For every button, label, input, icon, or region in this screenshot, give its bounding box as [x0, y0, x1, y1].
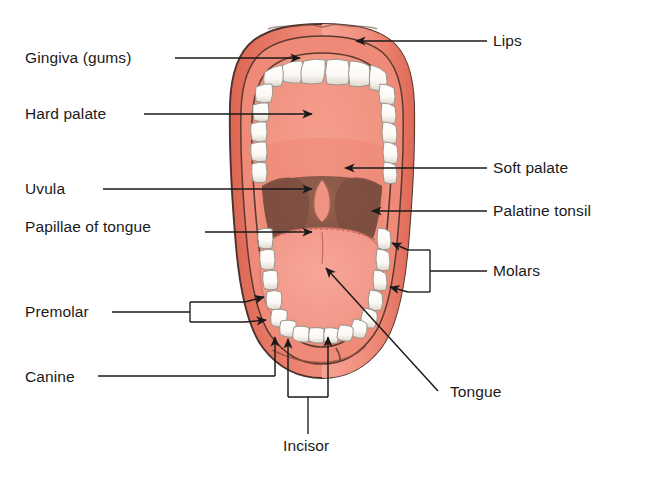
- label-lips: Lips: [493, 32, 522, 49]
- label-tongue: Tongue: [450, 383, 501, 400]
- oral-cavity-diagram: Lips Gingiva (gums) Hard palate Soft pal…: [0, 0, 645, 477]
- label-gingiva: Gingiva (gums): [25, 49, 132, 66]
- leader-premolar: [112, 297, 266, 322]
- label-incisor: Incisor: [283, 437, 329, 454]
- label-hard-palate: Hard palate: [25, 105, 106, 122]
- label-papillae-of-tongue: Papillae of tongue: [25, 218, 151, 235]
- tongue-median-sulcus: [322, 232, 323, 264]
- label-canine: Canine: [25, 368, 75, 385]
- label-palatine-tonsil: Palatine tonsil: [493, 202, 591, 219]
- label-premolar: Premolar: [25, 303, 89, 320]
- label-molars: Molars: [493, 262, 540, 279]
- mouth-illustration: [230, 24, 414, 378]
- label-uvula: Uvula: [25, 180, 65, 197]
- leader-canine: [98, 337, 275, 376]
- diagram-canvas: Lips Gingiva (gums) Hard palate Soft pal…: [0, 0, 645, 477]
- label-soft-palate: Soft palate: [493, 159, 568, 176]
